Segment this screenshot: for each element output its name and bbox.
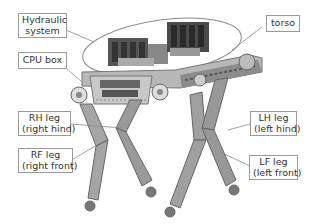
label-line: (right hind) [22, 124, 67, 135]
label-line: system [22, 26, 63, 37]
label-lf-leg: LF leg (left front) [249, 155, 298, 180]
leg-lf [165, 92, 206, 217]
label-line: RH leg [22, 113, 67, 124]
label-text: CPU box [23, 54, 63, 65]
label-rh-leg: RH leg (right hind) [18, 111, 71, 136]
label-lh-leg: LH leg (left hind) [250, 111, 297, 136]
robot-diagram: Hydraulic system CPU box torso RH leg (r… [0, 0, 313, 224]
label-torso: torso [266, 15, 300, 32]
label-rf-leg: RF leg (right front) [18, 148, 73, 173]
label-line: LH leg [254, 113, 293, 124]
label-hydraulic-system: Hydraulic system [18, 13, 67, 38]
leg-rf [80, 104, 108, 211]
label-cpu-box: CPU box [18, 52, 67, 69]
label-line: Hydraulic [22, 15, 63, 26]
label-line: RF leg [22, 150, 69, 161]
hydraulic-blocks [108, 22, 209, 66]
leg-rh [116, 100, 156, 197]
cpu-box [90, 76, 152, 104]
label-line: (left hind) [254, 124, 293, 135]
label-text: torso [271, 17, 295, 28]
label-line: (right front) [22, 161, 69, 172]
label-line: LF leg [253, 157, 294, 168]
leg-lh [202, 78, 239, 195]
label-line: (left front) [253, 168, 294, 179]
